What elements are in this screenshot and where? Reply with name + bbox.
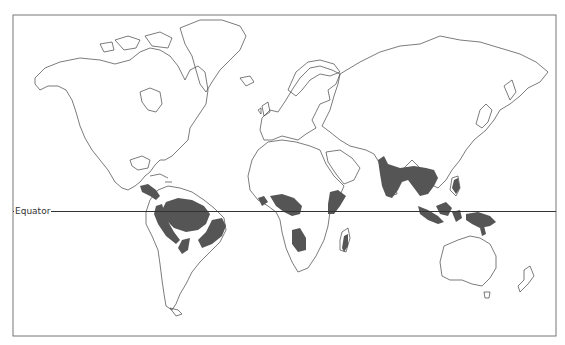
region-india-se-asia — [378, 156, 438, 198]
highlighted-regions — [140, 156, 496, 254]
arabia-outline — [326, 150, 360, 184]
gulf-of-mexico — [130, 156, 150, 170]
europe-outline — [260, 66, 340, 140]
arctic-islands — [100, 32, 172, 52]
tasmania-outline — [484, 292, 490, 298]
australia-outline — [440, 236, 496, 286]
region-south-central-africa — [292, 228, 306, 252]
region-new-guinea — [466, 212, 496, 228]
new-zealand-outline — [518, 266, 534, 292]
tierra-del-fuego — [170, 308, 182, 316]
region-central-america — [140, 184, 160, 200]
greenland-outline — [180, 20, 246, 92]
japan-outline — [476, 104, 492, 128]
kamchatka — [504, 80, 516, 100]
region-west-africa — [258, 196, 268, 206]
region-bolivia — [178, 238, 190, 254]
british-isles — [258, 102, 270, 116]
map-frame-border — [13, 15, 556, 336]
caribbean-islands — [150, 174, 172, 182]
north-america-outline — [35, 48, 208, 190]
equator-label: Equator — [14, 205, 51, 217]
hudson-bay — [140, 88, 162, 112]
region-east-africa — [328, 190, 346, 214]
asia-outline — [322, 36, 548, 188]
coastlines — [35, 20, 548, 316]
region-congo-basin — [270, 194, 302, 216]
scandinavia — [288, 60, 340, 96]
world-map — [0, 0, 565, 345]
iceland-outline — [240, 76, 254, 86]
region-indonesia — [418, 202, 462, 224]
